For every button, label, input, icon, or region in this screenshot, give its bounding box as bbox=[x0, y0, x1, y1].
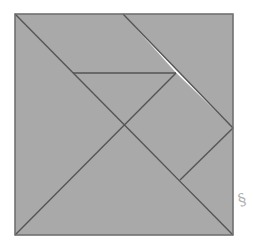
tangram-diagram bbox=[0, 0, 253, 250]
